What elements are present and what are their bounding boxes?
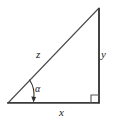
geometry-figure: z y x α [0,0,113,123]
hypotenuse-line [8,8,99,103]
angle-arc-icon [30,80,34,99]
right-angle-marker-icon [91,95,99,103]
base-side-label: x [59,107,64,118]
triangle-drawing [0,0,113,123]
angle-label-alpha: α [35,84,40,94]
hypotenuse-label: z [36,49,40,60]
angle-arrowhead-icon [31,97,36,103]
vertical-side-label: y [101,49,106,60]
